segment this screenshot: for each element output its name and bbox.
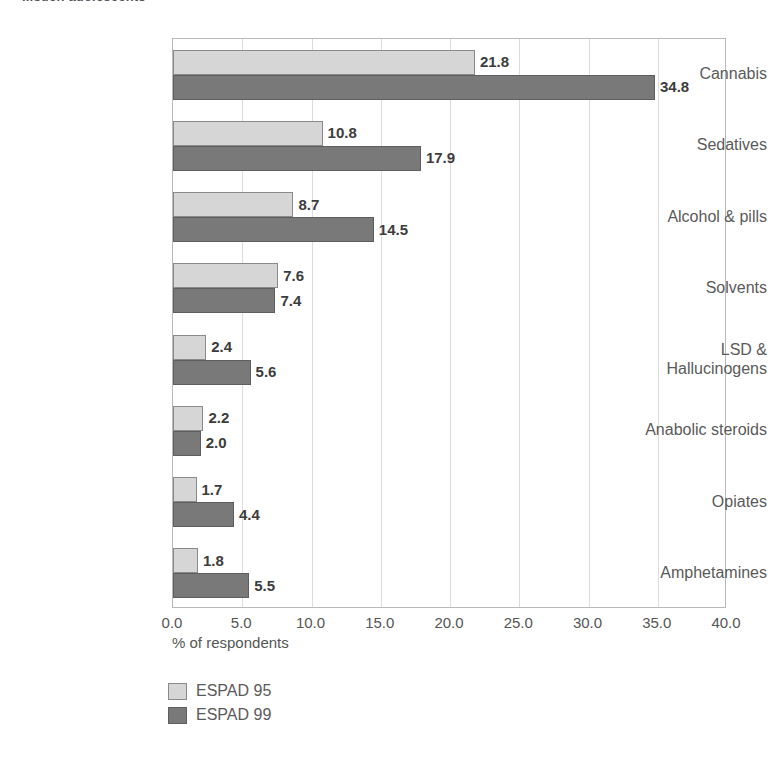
bar-value-label: 1.8	[203, 553, 224, 568]
chart-legend: ESPAD 95ESPAD 99	[168, 679, 271, 727]
gridline	[450, 39, 451, 607]
bar	[173, 75, 655, 100]
legend-item: ESPAD 95	[168, 679, 271, 703]
gridline	[589, 39, 590, 607]
gridline	[381, 39, 382, 607]
gridline	[519, 39, 520, 607]
category-label: Alcohol & pills	[609, 207, 777, 226]
legend-label: ESPAD 99	[196, 706, 271, 724]
category-label: LSD & Hallucinogens	[609, 340, 777, 378]
chart-title: ...such adolescents	[22, 0, 146, 4]
bar-value-label: 14.5	[379, 222, 408, 237]
bar-value-label: 2.0	[206, 435, 227, 450]
x-tick-label: 20.0	[419, 614, 479, 631]
x-tick-label: 5.0	[211, 614, 271, 631]
bar	[173, 121, 323, 146]
bar-value-label: 5.6	[256, 364, 277, 379]
bar-value-label: 8.7	[298, 197, 319, 212]
category-label: Cannabis	[609, 64, 777, 83]
bar-value-label: 1.7	[202, 482, 223, 497]
category-label: Amphetamines	[609, 563, 777, 582]
bar-value-label: 34.8	[660, 79, 689, 94]
legend-label: ESPAD 95	[196, 682, 271, 700]
bar-value-label: 2.2	[208, 410, 229, 425]
bar	[173, 431, 201, 456]
bar	[173, 573, 249, 598]
x-tick-label: 35.0	[627, 614, 687, 631]
x-axis-title: % of respondents	[172, 634, 289, 651]
legend-swatch	[168, 683, 187, 700]
bar	[173, 335, 206, 360]
category-label: Solvents	[609, 278, 777, 297]
gridline	[658, 39, 659, 607]
x-tick-label: 10.0	[281, 614, 341, 631]
legend-swatch	[168, 707, 187, 724]
bar	[173, 360, 251, 385]
bar-value-label: 17.9	[426, 150, 455, 165]
bar-value-label: 21.8	[480, 54, 509, 69]
bar	[173, 192, 293, 217]
bar	[173, 217, 374, 242]
bar	[173, 146, 421, 171]
x-tick-label: 0.0	[142, 614, 202, 631]
bar	[173, 263, 278, 288]
category-label: Sedatives	[609, 135, 777, 154]
x-tick-label: 30.0	[558, 614, 618, 631]
x-tick-label: 15.0	[350, 614, 410, 631]
bar-value-label: 10.8	[328, 125, 357, 140]
bar-value-label: 5.5	[254, 578, 275, 593]
x-tick-label: 40.0	[696, 614, 756, 631]
bar	[173, 548, 198, 573]
bar-value-label: 7.6	[283, 268, 304, 283]
category-label: Opiates	[609, 492, 777, 511]
bar-value-label: 2.4	[211, 339, 232, 354]
bar	[173, 50, 475, 75]
legend-item: ESPAD 99	[168, 703, 271, 727]
bar	[173, 502, 234, 527]
bar-value-label: 7.4	[280, 293, 301, 308]
category-label: Anabolic steroids	[609, 420, 777, 439]
bar	[173, 288, 275, 313]
bar-value-label: 4.4	[239, 507, 260, 522]
bar	[173, 406, 203, 431]
bar	[173, 477, 197, 502]
chart-figure: ...such adolescents CannabisSedativesAlc…	[0, 0, 777, 760]
x-tick-label: 25.0	[488, 614, 548, 631]
